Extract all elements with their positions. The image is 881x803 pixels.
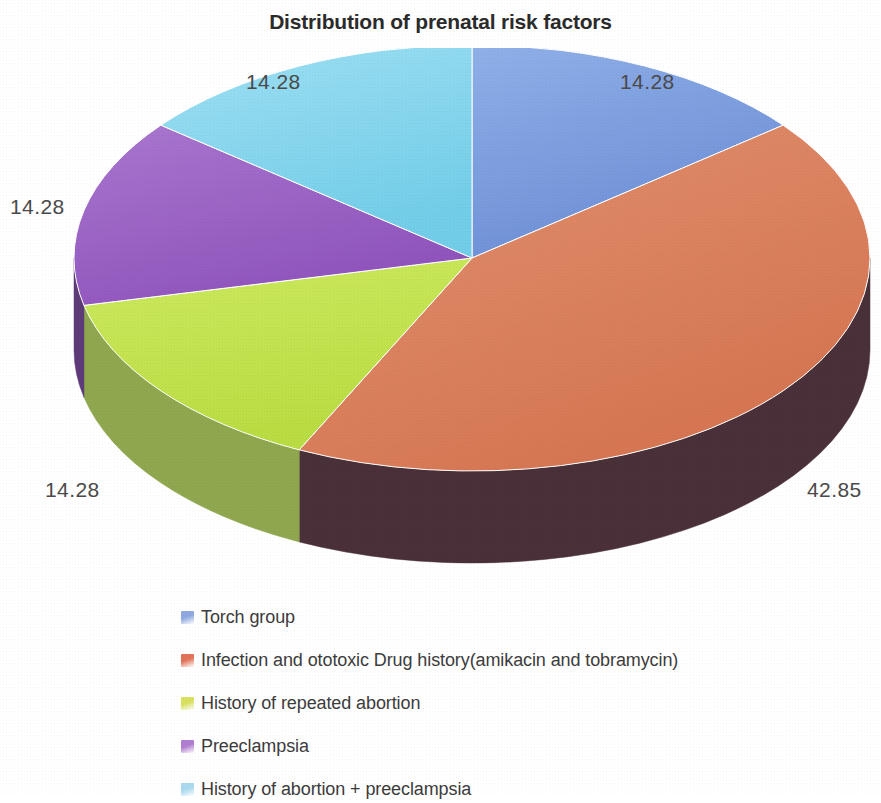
legend-item-label: Torch group [201, 607, 295, 628]
pie-chart-graphic [0, 48, 881, 588]
chart-title: Distribution of prenatal risk factors [0, 10, 881, 34]
legend-item[interactable]: History of abortion + preeclampsia [181, 768, 881, 803]
legend-item[interactable]: Preeclampsia [181, 725, 881, 768]
legend-swatch-icon [181, 611, 194, 624]
legend-item[interactable]: History of repeated abortion [181, 682, 881, 725]
data-label-preeclampsia: 14.28 [10, 195, 65, 219]
legend-item[interactable]: Infection and ototoxic Drug history(amik… [181, 639, 881, 682]
data-label-torch-group: 14.28 [620, 70, 675, 94]
data-label-infection-drug-history: 42.85 [807, 478, 862, 502]
legend-swatch-icon [181, 740, 194, 753]
legend-swatch-icon [181, 697, 194, 710]
legend-item-label: History of repeated abortion [201, 693, 420, 714]
data-label-repeated-abortion: 14.28 [45, 478, 100, 502]
legend-item-label: Preeclampsia [201, 736, 309, 757]
legend-item-label: History of abortion + preeclampsia [201, 779, 471, 800]
legend-swatch-icon [181, 783, 194, 796]
legend-item-label: Infection and ototoxic Drug history(amik… [201, 650, 678, 671]
legend-item[interactable]: Torch group [181, 596, 881, 639]
legend-swatch-icon [181, 654, 194, 667]
data-label-abortion-preeclampsia: 14.28 [246, 70, 301, 94]
chart-legend: Torch groupInfection and ototoxic Drug h… [181, 596, 881, 803]
